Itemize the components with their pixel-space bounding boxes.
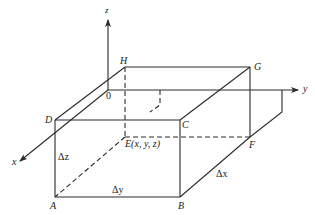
delta-y-label: Δy: [112, 185, 123, 195]
projection-line: [250, 90, 282, 137]
vertex-B-label: B: [178, 201, 184, 211]
edge-HD: [55, 67, 125, 120]
vertex-G-label: G: [254, 62, 261, 72]
edge-BF: [180, 137, 250, 197]
x-axis-label: x: [12, 157, 16, 167]
vertex-D-label: D: [45, 115, 52, 125]
vertex-E-label: E(x, y, z): [125, 139, 160, 149]
edge-GC: [180, 67, 250, 120]
y-axis-label: y: [303, 84, 307, 94]
box-element-diagram: z y x 0 H G D C E(x, y, z) F A B Δz Δy Δ…: [0, 0, 315, 215]
vertex-C-label: C: [182, 120, 189, 130]
delta-x-label: Δx: [216, 169, 227, 179]
vertex-H-label: H: [120, 56, 127, 66]
origin-label: 0: [106, 91, 111, 101]
vertex-A-label: A: [50, 201, 56, 211]
delta-z-label: Δz: [58, 152, 69, 162]
diagram-svg: [0, 0, 315, 215]
vertex-F-label: F: [249, 140, 255, 150]
z-axis-label: z: [105, 6, 109, 15]
hidden-projection: [150, 90, 160, 112]
